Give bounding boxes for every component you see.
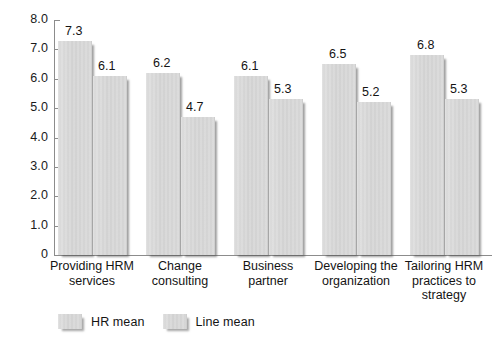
y-tick-mark [54,20,60,21]
bar [410,55,444,255]
bar-value-label: 6.1 [98,59,116,73]
legend-label: HR mean [91,315,145,329]
bar-value-label: 5.3 [274,82,292,96]
bar [322,64,356,255]
bar-chart: 8.07.06.05.04.03.02.01.00 7.36.16.24.76.… [0,0,494,345]
legend-item: HR mean [58,314,145,329]
bar-value-label: 6.1 [241,59,259,73]
chart-legend: HR meanLine mean [58,314,255,329]
y-tick-label: 5.0 [14,100,48,114]
y-tick-label: 8.0 [14,12,48,26]
bar-value-label: 7.3 [65,24,83,38]
legend-swatch [163,314,187,329]
bar [234,76,268,255]
bar-value-label: 6.2 [153,56,171,70]
y-tick-label: 7.0 [14,41,48,55]
bar [269,99,303,255]
legend-label: Line mean [196,315,255,329]
bar-value-label: 5.3 [450,82,468,96]
y-tick-label: 2.0 [14,188,48,202]
legend-swatch [58,314,82,329]
y-tick-mark [54,255,60,256]
bar [58,41,92,255]
y-tick-label: 1.0 [14,218,48,232]
category-label: Tailoring HRM practices to strategy [389,259,494,303]
bar-value-label: 6.8 [417,38,435,52]
bar-value-label: 5.2 [362,85,380,99]
bar [93,76,127,255]
bar-value-label: 6.5 [329,47,347,61]
bar [357,102,391,255]
y-tick-label: 6.0 [14,71,48,85]
x-axis-line [54,255,492,256]
bar [445,99,479,255]
bar [146,73,180,255]
bar [181,117,215,255]
legend-item: Line mean [163,314,255,329]
plot-area: 8.07.06.05.04.03.02.01.00 7.36.16.24.76.… [0,0,494,300]
y-tick-label: 3.0 [14,159,48,173]
y-tick-label: 4.0 [14,130,48,144]
bar-value-label: 4.7 [186,100,204,114]
